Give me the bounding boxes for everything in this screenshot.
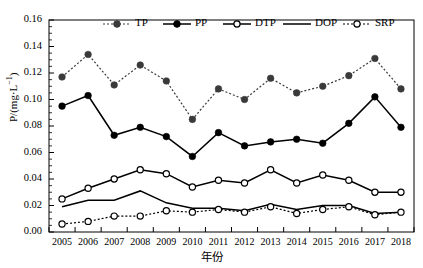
data-point-dtp [163, 171, 169, 177]
y-tick-label: 0.06 [0, 146, 42, 157]
data-point-srp [268, 204, 274, 210]
data-point-tp [372, 55, 379, 62]
data-point-srp [372, 212, 378, 218]
data-point-pp [111, 132, 118, 139]
data-point-tp [215, 86, 222, 93]
y-tick-label: 0.00 [0, 225, 42, 236]
y-tick-label: 0.02 [0, 199, 42, 210]
data-point-dtp [241, 180, 247, 186]
legend-label-pp: PP [195, 16, 207, 28]
y-tick-label: 0.12 [0, 66, 42, 77]
data-point-pp [346, 120, 353, 127]
data-point-tp [398, 86, 405, 93]
data-point-dtp [189, 184, 195, 190]
data-point-pp [267, 139, 274, 146]
y-tick-label: 0.16 [0, 13, 42, 24]
data-point-pp [319, 140, 326, 147]
y-tick-label: 0.10 [0, 93, 42, 104]
x-axis-title: 年份 [0, 248, 423, 264]
data-point-tp [241, 96, 248, 103]
data-point-dtp [346, 177, 352, 183]
chart-plot-area [0, 0, 423, 268]
data-point-pp [85, 92, 92, 99]
data-point-dtp [59, 196, 65, 202]
data-point-dtp [215, 177, 221, 183]
y-tick-label: 0.04 [0, 172, 42, 183]
data-point-tp [319, 83, 326, 90]
data-point-srp [163, 208, 169, 214]
data-point-srp [320, 206, 326, 212]
data-point-tp [111, 82, 118, 89]
data-point-srp [59, 221, 65, 227]
data-point-srp [241, 209, 247, 215]
data-point-srp [346, 204, 352, 210]
data-point-tp [293, 90, 300, 97]
chart-figure: P/(mg·L−1) 年份 0.000.020.040.060.080.100.… [0, 0, 423, 268]
data-point-pp [163, 133, 170, 140]
data-point-dtp [85, 185, 91, 191]
data-point-srp [189, 209, 195, 215]
series-line-dtp [62, 170, 401, 199]
legend-label-tp: TP [135, 16, 148, 28]
data-point-dtp [398, 189, 404, 195]
legend-marker-tp [114, 21, 121, 28]
data-point-dtp [372, 189, 378, 195]
data-point-tp [267, 75, 274, 82]
legend-marker-dtp [234, 21, 240, 27]
data-point-pp [59, 103, 66, 110]
data-point-srp [215, 206, 221, 212]
data-point-pp [241, 143, 248, 150]
data-point-tp [346, 72, 353, 79]
legend-label-dtp: DTP [255, 16, 276, 28]
data-point-dtp [111, 176, 117, 182]
data-series-group [59, 51, 405, 227]
x-axis-ticks [49, 227, 414, 232]
y-tick-label: 0.14 [0, 40, 42, 51]
data-point-srp [111, 213, 117, 219]
y-axis-ticks [49, 20, 54, 232]
data-point-pp [215, 129, 222, 136]
data-point-pp [137, 124, 144, 131]
legend-label-srp: SRP [375, 16, 395, 28]
data-point-tp [59, 74, 66, 81]
data-point-pp [398, 124, 405, 131]
data-point-tp [163, 78, 170, 85]
data-point-tp [85, 51, 92, 58]
legend-marker-pp [174, 21, 181, 28]
data-point-dtp [137, 167, 143, 173]
data-point-pp [372, 94, 379, 101]
data-point-dtp [320, 172, 326, 178]
data-point-srp [85, 218, 91, 224]
y-tick-label: 0.08 [0, 119, 42, 130]
data-point-tp [137, 62, 144, 69]
data-point-srp [294, 210, 300, 216]
data-point-dtp [294, 180, 300, 186]
data-point-srp [398, 209, 404, 215]
data-point-srp [137, 213, 143, 219]
data-point-dtp [268, 167, 274, 173]
x-tick-label: 2018 [384, 236, 418, 247]
legend-label-dop: DOP [315, 16, 337, 28]
data-point-tp [189, 116, 196, 123]
data-point-pp [293, 136, 300, 143]
data-point-pp [189, 153, 196, 160]
legend-marker-srp [354, 21, 360, 27]
